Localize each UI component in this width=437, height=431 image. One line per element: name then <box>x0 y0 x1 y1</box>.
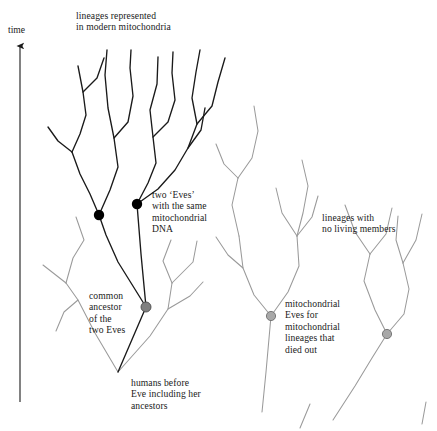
extinct-branch-mid-2 <box>168 282 203 309</box>
extinct-branch-mid-4 <box>172 241 197 283</box>
left-eve-branch-a <box>72 152 99 215</box>
extinct-twig-1 <box>300 404 310 428</box>
extinct-branch-r1-d <box>238 106 258 178</box>
eve-node-left[interactable] <box>94 210 104 220</box>
extinct-branch-r2-stem <box>333 334 387 420</box>
right-eve-branch-b1 <box>197 58 225 124</box>
label-two-eves: two ‘Eves’ with the same mitochondrial D… <box>152 189 207 235</box>
eve-node-right[interactable] <box>132 199 142 209</box>
extinct-branch-r1-c <box>232 178 239 236</box>
extinct-branch-left-2 <box>43 265 66 283</box>
common-ancestor-node[interactable] <box>141 302 151 312</box>
left-eve-branch-b1 <box>114 50 133 138</box>
extinct-branch-r1-g <box>276 188 297 236</box>
right-eve-branch-b <box>137 50 200 204</box>
left-eve-branch-a3 <box>83 58 104 92</box>
extinct-branch-r1-e <box>216 144 238 178</box>
time-axis-label: time <box>8 24 25 35</box>
extinct-branch-r2-d <box>387 263 409 334</box>
label-common-ancestor: common ancestor of the two Eves <box>89 290 125 336</box>
left-eve-branch-b <box>99 50 118 215</box>
extinct-twig-2 <box>422 402 426 424</box>
extinct-branch-r2-f <box>396 216 403 263</box>
extinct-lineages-group <box>43 106 426 428</box>
extinct-branch-r2-e <box>403 214 422 263</box>
label-humans-before-eve: humans before Eve including her ancestor… <box>131 377 201 411</box>
branch-common-to-eve-right <box>137 204 146 307</box>
label-no-living-members: lineages with no living members <box>322 212 396 235</box>
extinct-branch-left-4 <box>56 300 78 331</box>
extinct-branch-r1-a <box>239 236 271 316</box>
extinct-branch-mid-3 <box>163 240 172 283</box>
label-modern-lineages: lineages represented in modern mitochond… <box>76 10 171 33</box>
mitochondrial-eve-figure: time lineages represented in modern mito… <box>0 0 437 431</box>
extinct-eve-node-right[interactable] <box>382 329 391 338</box>
label-mitochondrial-eves-died-out: mitochondrial Eves for mitochondrial lin… <box>285 298 340 355</box>
extinct-eve-node-middle[interactable] <box>266 311 275 320</box>
right-eve-branch-a <box>137 57 158 204</box>
extinct-branch-r1-b <box>216 237 243 268</box>
extinct-branch-r2-a <box>364 254 387 334</box>
right-eve-branch-a1 <box>153 52 175 137</box>
extinct-branch-r1-h <box>297 196 318 236</box>
left-eve-branch-a1 <box>48 127 72 152</box>
extinct-branch-r1-stem <box>262 316 271 412</box>
extinct-branch-left-3 <box>66 217 84 283</box>
left-eve-branch-a2 <box>72 66 86 152</box>
